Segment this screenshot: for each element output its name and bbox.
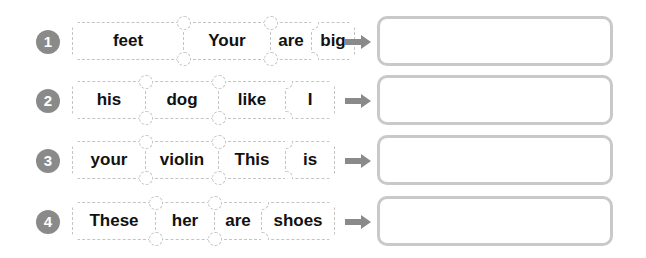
arrow-right-icon (345, 35, 371, 49)
answer-box[interactable] (377, 75, 613, 125)
answer-box[interactable] (377, 196, 613, 246)
word-card[interactable]: shoes (261, 202, 335, 240)
word-card[interactable]: dog (145, 81, 219, 119)
answer-box[interactable] (377, 135, 613, 185)
answer-box[interactable] (377, 16, 613, 66)
exercise-row-3: 3 your violin This is (0, 135, 646, 187)
word-card[interactable]: your (72, 141, 146, 179)
arrow-right-icon (345, 215, 371, 229)
word-card[interactable]: her (155, 202, 215, 240)
number-badge: 1 (36, 30, 60, 54)
word-strip: feet Your are big (72, 22, 354, 62)
word-card[interactable]: are (214, 202, 262, 240)
word-card[interactable]: are (270, 22, 312, 60)
exercise-row-1: 1 feet Your are big (0, 16, 646, 68)
number-badge: 3 (36, 149, 60, 173)
exercise-row-2: 2 his dog like I (0, 75, 646, 127)
word-card[interactable]: Your (183, 22, 271, 60)
word-card[interactable]: his (72, 81, 146, 119)
arrow-right-icon (345, 154, 371, 168)
word-card[interactable]: I (285, 81, 335, 119)
word-card[interactable]: is (285, 141, 335, 179)
word-card[interactable]: feet (72, 22, 184, 60)
exercise-row-4: 4 These her are shoes (0, 196, 646, 248)
word-strip: These her are shoes (72, 202, 334, 242)
word-strip: his dog like I (72, 81, 334, 121)
number-badge: 2 (36, 89, 60, 113)
word-card[interactable]: like (218, 81, 286, 119)
word-card[interactable]: violin (145, 141, 219, 179)
word-card[interactable]: These (72, 202, 156, 240)
arrow-right-icon (345, 94, 371, 108)
number-badge: 4 (36, 210, 60, 234)
word-strip: your violin This is (72, 141, 334, 181)
word-card[interactable]: This (218, 141, 286, 179)
